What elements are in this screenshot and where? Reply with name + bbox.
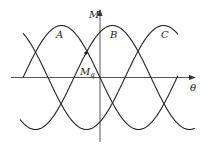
m-axis-label: M <box>88 9 100 20</box>
curve-label-c: C <box>161 29 169 40</box>
theta-axis-label: θ <box>190 82 196 93</box>
curve-label-a: A <box>55 29 63 40</box>
curve-label-b: B <box>109 29 117 40</box>
mq-point <box>84 51 87 54</box>
torque-angle-diagram: A B C M θ Mq <box>0 0 209 152</box>
